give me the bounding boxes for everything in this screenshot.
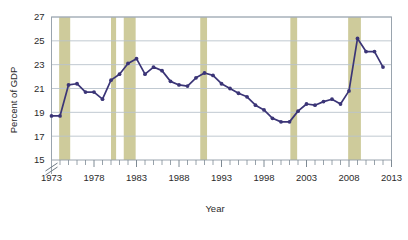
data-point [118,72,122,76]
y-tick-label: 25 [34,35,45,46]
data-point [67,83,71,87]
x-axis-title: Year [205,203,224,214]
x-tick-label: 1988 [168,172,189,183]
data-point [75,82,79,86]
data-point [271,116,275,120]
data-point [135,57,139,61]
y-tick-label: 15 [34,154,45,165]
x-tick-label: 2008 [338,172,359,183]
data-point [109,78,113,82]
data-point [373,50,377,54]
data-point [288,120,292,124]
data-point [160,69,164,73]
y-tick-label: 27 [34,11,45,22]
data-point [211,73,215,77]
line-chart: 15171921232527 1973197819831988199319982… [0,0,408,240]
data-point [254,103,258,107]
data-point [305,102,309,106]
x-tick-label: 1993 [211,172,232,183]
y-tick-label: 23 [34,59,45,70]
data-point [381,65,385,69]
data-point [330,97,334,101]
data-point [186,84,190,88]
y-tick-label: 19 [34,107,45,118]
data-point [58,114,62,118]
x-tick-label: 2013 [381,172,402,183]
x-axis-tick-labels: 197319781983198819931998200320082013 [41,172,402,183]
x-tick-label: 2003 [296,172,317,183]
data-point [194,76,198,80]
chart-container: 15171921232527 1973197819831988199319982… [0,0,408,240]
data-point [245,95,249,99]
data-point [313,103,317,107]
y-axis-title: Percent of GDP [8,67,19,134]
x-tick-label: 1998 [253,172,274,183]
data-point [364,50,368,54]
data-point [126,62,130,66]
data-point [339,102,343,106]
data-point [356,37,360,41]
data-point [169,79,173,83]
data-point [177,83,181,87]
y-tick-label: 21 [34,83,45,94]
y-tick-label: 17 [34,131,45,142]
data-point [296,109,300,113]
data-point [143,72,147,76]
data-point [101,97,105,101]
data-point [237,91,241,95]
data-point [203,71,207,75]
data-point [152,65,156,69]
data-point [84,90,88,94]
data-point [92,90,96,94]
data-point [220,82,224,86]
data-point [347,89,351,93]
data-point [228,87,232,91]
x-tick-label: 1978 [83,172,104,183]
data-point [262,108,266,112]
x-tick-label: 1983 [126,172,147,183]
data-point [50,114,54,118]
data-point [279,120,283,124]
data-point [322,100,326,104]
